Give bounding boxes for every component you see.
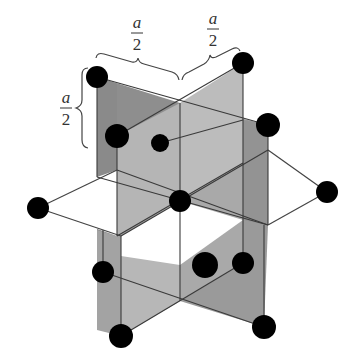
atom-top-right	[232, 52, 254, 74]
label-top-left-numerator: a	[133, 13, 142, 32]
atom-lower-middle	[192, 252, 218, 278]
atom-back-center	[151, 134, 169, 152]
atom-lower-right	[232, 252, 254, 274]
label-top-left: a 2	[131, 13, 143, 54]
label-left-denominator: 2	[62, 110, 71, 129]
label-top-right: a 2	[207, 9, 219, 50]
label-top-right-denominator: 2	[209, 31, 218, 50]
atom-center	[169, 190, 191, 212]
atom-right	[316, 181, 338, 203]
label-left-numerator: a	[62, 88, 71, 107]
label-top-right-numerator: a	[209, 9, 218, 28]
lattice-diagram: a 2 a 2 a 2	[0, 0, 357, 361]
atom-bottom-right	[252, 315, 276, 339]
label-top-left-denominator: 2	[133, 35, 142, 54]
atom-mid-left	[105, 124, 129, 148]
atom-top-left	[86, 66, 108, 88]
atom-mid-right	[256, 113, 280, 137]
atom-lower-left	[92, 261, 114, 283]
atom-left	[27, 197, 49, 219]
label-left: a 2	[60, 88, 72, 129]
atom-bottom-left	[109, 324, 133, 348]
